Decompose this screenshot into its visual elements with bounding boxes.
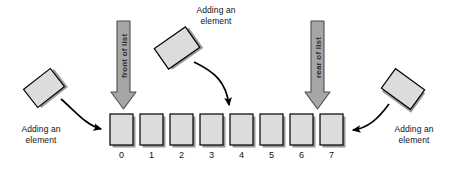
list-cells-group <box>110 114 346 148</box>
index-label-1: 1 <box>140 150 164 160</box>
insert-arrow-middle <box>194 62 229 105</box>
list-cell-6[interactable] <box>290 114 313 145</box>
caption-right: Adding an element <box>381 124 447 146</box>
list-cell-1[interactable] <box>140 114 163 145</box>
index-label-5: 5 <box>260 150 284 160</box>
list-cell-4[interactable] <box>230 114 253 145</box>
list-cell-7[interactable] <box>320 114 343 145</box>
diagram-canvas: front of list rear of list <box>0 0 456 181</box>
list-cell-5[interactable] <box>260 114 283 145</box>
list-cell-3[interactable] <box>200 114 223 145</box>
index-label-2: 2 <box>170 150 194 160</box>
block-arrow-rear: rear of list <box>305 21 330 109</box>
block-arrow-rear-label: rear of list <box>314 37 323 78</box>
index-label-6: 6 <box>290 150 314 160</box>
block-arrow-front: front of list <box>111 21 136 109</box>
floating-element-middle[interactable] <box>154 25 203 71</box>
list-cell-0[interactable] <box>110 114 133 145</box>
diagram-svg: front of list rear of list <box>0 0 456 181</box>
list-cell-2[interactable] <box>170 114 193 145</box>
caption-middle: Adding an element <box>183 5 249 27</box>
index-label-4: 4 <box>230 150 254 160</box>
index-label-0: 0 <box>110 150 134 160</box>
block-arrow-front-label: front of list <box>120 33 129 78</box>
floating-element-left[interactable] <box>24 67 68 110</box>
index-label-3: 3 <box>200 150 224 160</box>
index-label-7: 7 <box>320 150 344 160</box>
caption-left: Adding an element <box>8 124 74 146</box>
